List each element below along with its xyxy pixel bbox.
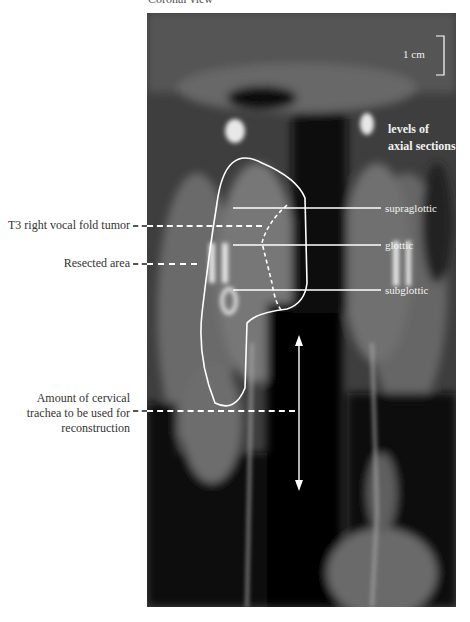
scale-bar-label: 1 cm [403, 47, 425, 61]
resected-area-label: Resected area [64, 256, 130, 271]
top-caption: Coronal view [148, 0, 213, 7]
levels-title: levels of axial sections [388, 121, 456, 155]
resected-leader-line-outer [133, 263, 147, 265]
level-label-subglottic: subglottic [385, 283, 428, 297]
trachea-leader-line [147, 410, 295, 412]
ct-coronal-image: 1 cm levels of axial sections supraglott… [147, 13, 456, 607]
resected-leader-line [147, 263, 197, 265]
ct-anatomy-rendering [147, 13, 456, 607]
tumor-label: T3 right vocal fold tumor [8, 218, 130, 233]
level-label-glottic: glottic [385, 238, 413, 252]
tumor-leader-line-outer [133, 225, 147, 227]
tumor-leader-line [147, 225, 262, 227]
trachea-leader-line-outer [133, 410, 147, 412]
level-label-supraglottic: supraglottic [385, 201, 437, 215]
trachea-reconstruction-label: Amount of cervical trachea to be used fo… [27, 391, 130, 436]
